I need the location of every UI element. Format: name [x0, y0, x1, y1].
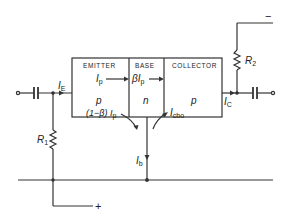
transistor-circuit-diagram: EMITTER BASE COLLECTOR p n p Ip βIp (1−β… — [0, 0, 291, 224]
base-doping: n — [143, 95, 149, 106]
resistor-r2 — [234, 50, 240, 70]
base-label: BASE — [135, 62, 155, 69]
icbo-label: Icbo — [170, 107, 184, 119]
supply-negative: − — [265, 10, 271, 22]
emitter-doping: p — [95, 95, 102, 106]
r1-label: R1 — [37, 134, 48, 146]
supply-positive: + — [95, 200, 101, 212]
base-current-arrow — [145, 155, 150, 160]
ie-label: IE — [58, 80, 66, 92]
ic-label: IC — [224, 96, 232, 108]
recombination-label: (1−β) Ip — [86, 108, 116, 120]
beta-ip-label: βIp — [131, 73, 145, 86]
ip-label: Ip — [96, 73, 103, 86]
collector-label: COLLECTOR — [172, 62, 217, 69]
output-terminal — [271, 91, 274, 94]
resistor-r1 — [50, 130, 56, 149]
r2-label: R2 — [245, 55, 256, 67]
collector-doping: p — [190, 95, 197, 106]
collector-current-arrow — [230, 91, 235, 96]
ib-label: Ib — [136, 155, 143, 167]
input-terminal — [16, 91, 19, 94]
emitter-label: EMITTER — [83, 62, 116, 69]
